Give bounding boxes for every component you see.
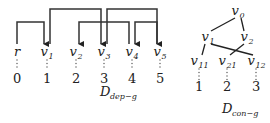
dep-index-5: 5 bbox=[156, 71, 164, 86]
con-node-v0-subscript: 0 bbox=[240, 11, 245, 20]
dep-graph-caption: D dep−g bbox=[99, 84, 137, 101]
dep-index-2: 2 bbox=[72, 71, 80, 86]
con-node-v11: v11 bbox=[191, 53, 209, 70]
dep-caption-sub: dep−g bbox=[110, 92, 137, 101]
dep-node-v4-subscript: 4 bbox=[133, 52, 139, 61]
con-node-v1-subscript: 1 bbox=[210, 37, 215, 46]
dep-arc-r-to-v1 bbox=[17, 22, 44, 44]
dep-node-v3-label: v bbox=[98, 44, 106, 59]
con-node-v2: v2 bbox=[241, 29, 254, 46]
con-node-v12-label: v bbox=[248, 53, 256, 68]
diagram-canvas: r0v11v22v33v44v55 D dep−g v0v1v2v111v212… bbox=[0, 0, 270, 123]
dep-alignment-dots-v1 bbox=[46, 59, 47, 67]
con-graph-caption: D con−g bbox=[221, 101, 258, 118]
dep-index-4: 4 bbox=[128, 71, 136, 86]
dep-node-r: r bbox=[14, 44, 21, 59]
dep-alignment-dots-v4 bbox=[131, 59, 132, 67]
dependency-graph: r0v11v22v33v44v55 bbox=[13, 9, 167, 86]
con-index-3: 3 bbox=[252, 79, 260, 94]
dep-node-v3-subscript: 3 bbox=[106, 52, 111, 61]
dep-node-v2: v2 bbox=[70, 44, 83, 61]
con-node-v1-label: v bbox=[202, 29, 210, 44]
dep-node-v4: v4 bbox=[126, 44, 139, 61]
con-edge-v1-v11 bbox=[202, 44, 205, 55]
dep-node-v1-label: v bbox=[41, 44, 49, 59]
con-node-v21: v21 bbox=[219, 53, 237, 70]
con-edge-v0-v1 bbox=[211, 18, 235, 31]
dep-node-r-label: r bbox=[14, 44, 21, 59]
dep-index-0: 0 bbox=[13, 71, 21, 86]
dep-node-v1-subscript: 1 bbox=[49, 52, 54, 61]
con-node-v12: v12 bbox=[248, 53, 266, 70]
con-node-v11-label: v bbox=[191, 53, 199, 68]
con-index-1: 1 bbox=[195, 79, 203, 94]
con-node-v0-label: v bbox=[232, 3, 240, 18]
dep-arc-v3-to-v5 bbox=[107, 9, 157, 44]
dep-node-v3: v3 bbox=[98, 44, 111, 61]
dep-arc-v5-to-v4 bbox=[135, 22, 157, 44]
con-node-v2-subscript: 2 bbox=[248, 37, 254, 46]
dep-node-v5: v5 bbox=[154, 44, 167, 61]
dep-node-v5-subscript: 5 bbox=[162, 52, 167, 61]
con-node-v1: v1 bbox=[202, 29, 215, 46]
con-caption-sub: con−g bbox=[232, 109, 258, 118]
dep-node-v1: v1 bbox=[41, 44, 54, 61]
dep-alignment-dots-r bbox=[16, 59, 17, 67]
dep-arc-v4-to-v2 bbox=[79, 22, 129, 44]
con-node-v0: v0 bbox=[232, 3, 245, 20]
con-node-v11-subscript: 11 bbox=[199, 61, 209, 70]
dep-alignment-dots-v2 bbox=[75, 59, 76, 67]
dep-node-v5-label: v bbox=[154, 44, 162, 59]
constituency-graph: v0v1v2v111v212v123 bbox=[191, 3, 266, 94]
con-node-v21-label: v bbox=[219, 53, 227, 68]
dep-index-1: 1 bbox=[43, 71, 51, 86]
dep-node-v4-label: v bbox=[126, 44, 134, 59]
dep-alignment-dots-v3 bbox=[103, 59, 104, 67]
dep-node-v2-subscript: 2 bbox=[77, 52, 83, 61]
con-node-v12-subscript: 12 bbox=[256, 61, 266, 70]
dep-node-v2-label: v bbox=[70, 44, 78, 59]
con-node-v2-label: v bbox=[241, 29, 249, 44]
con-index-2: 2 bbox=[223, 79, 231, 94]
dep-arc-v1-to-v3 bbox=[50, 9, 101, 44]
dep-alignment-dots-v5 bbox=[159, 59, 160, 67]
